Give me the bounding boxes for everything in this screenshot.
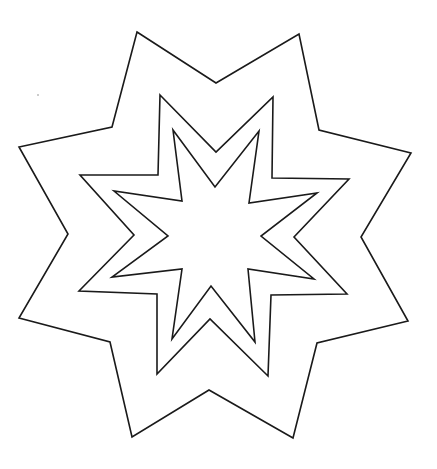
stray-speck bbox=[37, 94, 39, 96]
inner-star-outline bbox=[112, 130, 317, 342]
drawing-canvas bbox=[0, 0, 437, 469]
outer-star-outline bbox=[19, 32, 411, 438]
nested-stars-drawing bbox=[0, 0, 437, 469]
middle-star-outline bbox=[79, 95, 349, 376]
